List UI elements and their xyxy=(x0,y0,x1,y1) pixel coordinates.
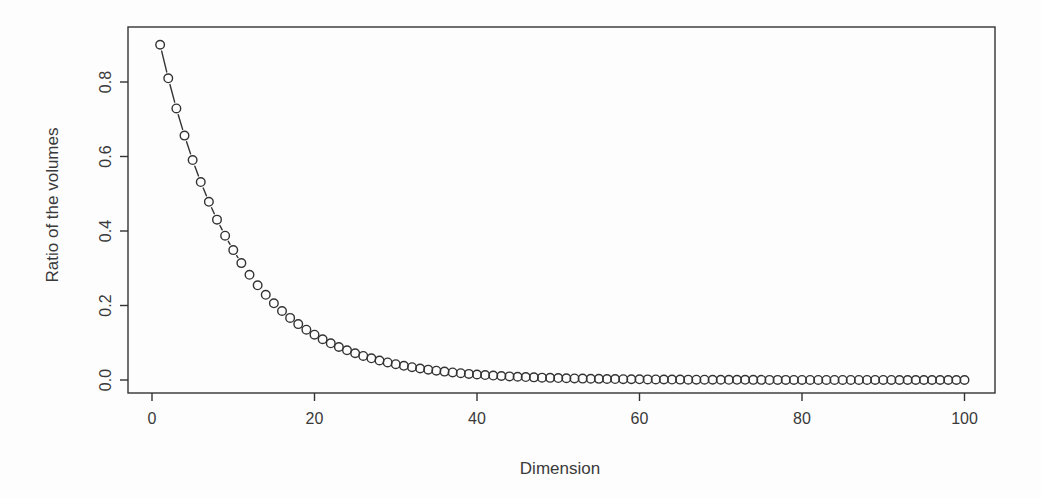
data-point xyxy=(871,376,880,385)
data-point xyxy=(270,299,279,308)
data-point xyxy=(335,343,344,352)
y-axis-ticks: 0.00.20.40.60.8 xyxy=(97,71,129,391)
connector-segment xyxy=(203,188,206,196)
data-point xyxy=(814,376,823,385)
data-point xyxy=(586,374,595,383)
data-point xyxy=(895,376,904,385)
data-point xyxy=(838,376,847,385)
plot-canvas: 020406080100 0.00.20.40.60.8 Dimension R… xyxy=(0,0,1041,498)
data-point xyxy=(221,231,230,240)
y-tick-label: 0.4 xyxy=(97,220,114,242)
data-point xyxy=(790,376,799,385)
data-point xyxy=(855,376,864,385)
y-tick-label: 0.0 xyxy=(97,369,114,391)
data-point xyxy=(513,372,522,381)
data-point xyxy=(497,372,506,381)
data-point xyxy=(578,374,587,383)
data-point xyxy=(391,360,400,369)
data-point xyxy=(278,307,287,316)
data-point xyxy=(733,376,742,385)
plot-box xyxy=(128,27,995,393)
data-point xyxy=(595,375,604,384)
data-point xyxy=(700,375,709,384)
data-point xyxy=(383,358,392,367)
data-point xyxy=(489,371,498,380)
data-point xyxy=(473,370,482,379)
data-point xyxy=(936,376,945,385)
connector-segment xyxy=(178,115,182,130)
data-point xyxy=(822,376,831,385)
data-point xyxy=(481,371,490,380)
data-point xyxy=(456,369,465,378)
data-point xyxy=(172,104,181,113)
series-data-points xyxy=(156,40,969,384)
data-point xyxy=(928,376,937,385)
data-point xyxy=(676,375,685,384)
data-point xyxy=(318,335,327,344)
data-point xyxy=(643,375,652,384)
data-point xyxy=(205,198,214,207)
data-point xyxy=(863,376,872,385)
x-tick-label: 80 xyxy=(793,410,811,427)
figure-r-plot: 020406080100 0.00.20.40.60.8 Dimension R… xyxy=(0,0,1041,498)
data-point xyxy=(245,270,254,279)
data-point xyxy=(765,376,774,385)
data-point xyxy=(367,354,376,363)
y-tick-label: 0.8 xyxy=(97,71,114,93)
data-point xyxy=(521,373,530,382)
connector-segment xyxy=(228,241,230,244)
data-point xyxy=(619,375,628,384)
data-point xyxy=(806,376,815,385)
data-point xyxy=(294,320,303,329)
data-point xyxy=(424,365,433,374)
x-tick-label: 40 xyxy=(468,410,486,427)
data-point xyxy=(253,281,262,290)
data-point xyxy=(229,246,238,255)
data-point xyxy=(684,375,693,384)
x-tick-label: 100 xyxy=(951,410,978,427)
data-point xyxy=(261,290,270,299)
data-point xyxy=(879,376,888,385)
data-point xyxy=(920,376,929,385)
data-point xyxy=(911,376,920,385)
data-point xyxy=(562,374,571,383)
data-point xyxy=(546,374,555,383)
data-point xyxy=(440,367,449,376)
data-point xyxy=(408,363,417,372)
data-point xyxy=(781,376,790,385)
connector-segment xyxy=(212,208,215,214)
y-tick-label: 0.2 xyxy=(97,294,114,316)
data-point xyxy=(196,178,205,187)
data-point xyxy=(903,376,912,385)
x-axis-ticks: 020406080100 xyxy=(148,393,978,427)
data-point xyxy=(286,314,295,323)
data-point xyxy=(465,370,474,379)
data-point xyxy=(725,375,734,384)
data-point xyxy=(302,325,311,334)
data-point xyxy=(635,375,644,384)
data-point xyxy=(310,330,319,339)
data-point xyxy=(668,375,677,384)
data-point xyxy=(660,375,669,384)
data-point xyxy=(156,40,165,49)
data-point xyxy=(416,364,425,373)
data-point xyxy=(432,366,441,375)
data-point xyxy=(798,376,807,385)
data-point xyxy=(448,368,457,377)
data-point xyxy=(611,375,620,384)
connector-segment xyxy=(237,256,238,258)
y-tick-label: 0.6 xyxy=(97,145,114,167)
data-point xyxy=(651,375,660,384)
data-point xyxy=(846,376,855,385)
data-point xyxy=(716,375,725,384)
data-point xyxy=(627,375,636,384)
data-point xyxy=(505,372,514,381)
data-point xyxy=(741,376,750,385)
data-point xyxy=(359,352,368,361)
data-point xyxy=(554,374,563,383)
data-point xyxy=(530,373,539,382)
data-point xyxy=(749,376,758,385)
connector-segment xyxy=(170,85,175,103)
data-point xyxy=(326,339,335,348)
data-point xyxy=(603,375,612,384)
